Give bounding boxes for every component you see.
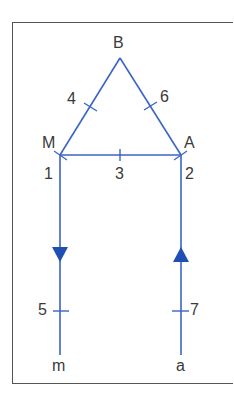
node-m-label: m [52,358,65,374]
edge-3-label: 3 [115,166,124,182]
edge-6-label: 6 [160,89,169,105]
arrow-up-icon [173,247,189,262]
edge-5-label: 5 [38,302,47,318]
node-A-label: A [184,135,195,151]
tick-6 [144,102,157,110]
node-a-label: a [176,358,185,374]
edge-2-label: 2 [185,166,194,182]
node-B-label: B [113,35,124,51]
edge-7-label: 7 [190,302,199,318]
circuit-diagram [0,0,233,417]
node-M-label: M [42,135,55,151]
edge-4-label: 4 [67,91,76,107]
frame [13,23,234,384]
arrow-down-icon [52,247,68,262]
edge-1-label: 1 [44,166,53,182]
